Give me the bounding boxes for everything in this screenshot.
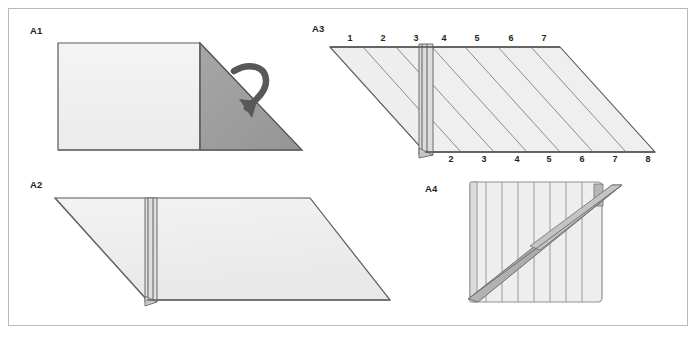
a3-bottom-label-7: 7 xyxy=(609,154,621,164)
a4-left-fold-edge xyxy=(470,182,477,302)
a2-sheet xyxy=(55,198,390,300)
a3-left-creases xyxy=(330,47,425,152)
a3-top-label-3: 3 xyxy=(410,33,422,43)
a2-pleat-band xyxy=(145,198,157,302)
panel-label-a1: A1 xyxy=(30,25,43,36)
panel-a4-art xyxy=(468,182,622,302)
panel-a2-art xyxy=(55,198,390,306)
a3-top-label-1: 1 xyxy=(344,33,356,43)
figure-root: A1 A2 A3 A4 1 2 3 4 5 6 7 2 3 4 5 6 7 8 xyxy=(0,0,700,344)
panel-label-a4: A4 xyxy=(425,183,438,194)
a3-top-label-6: 6 xyxy=(505,33,517,43)
a3-top-label-7: 7 xyxy=(538,33,550,43)
a3-top-label-2: 2 xyxy=(377,33,389,43)
a3-pleat-band xyxy=(419,44,433,155)
a3-bottom-label-2: 2 xyxy=(445,154,457,164)
panel-label-a2: A2 xyxy=(30,179,43,190)
a3-bottom-label-3: 3 xyxy=(478,154,490,164)
a3-bottom-label-4: 4 xyxy=(511,154,523,164)
panel-label-a3: A3 xyxy=(312,23,325,34)
panel-a3-art xyxy=(330,44,655,158)
a3-bottom-label-8: 8 xyxy=(642,154,654,164)
a3-right-trapezoid xyxy=(432,47,655,152)
a1-sheet-left xyxy=(58,43,200,150)
panel-a1-art xyxy=(58,43,302,150)
a1-dark-flap xyxy=(200,43,302,150)
a3-top-label-4: 4 xyxy=(438,33,450,43)
a3-bottom-label-6: 6 xyxy=(576,154,588,164)
a3-top-label-5: 5 xyxy=(471,33,483,43)
diagram-canvas xyxy=(0,0,700,344)
a3-bottom-label-5: 5 xyxy=(543,154,555,164)
